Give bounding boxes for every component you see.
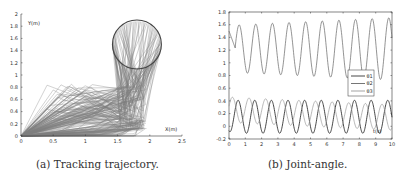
x-tick-label: 8 <box>358 141 361 147</box>
y-tick-label: 1 <box>15 72 18 78</box>
x-tick-label: 2 <box>260 141 263 147</box>
caption-joint-angle: (b) Joint-angle. <box>268 158 347 170</box>
x-tick-label: 0.5 <box>49 138 57 144</box>
x-tick-label: 10 <box>389 141 395 147</box>
y-tick-label: 0.2 <box>10 121 18 127</box>
y-tick-label: 1.8 <box>10 23 18 29</box>
x-tick-label: 2.5 <box>178 138 186 144</box>
x-tick-label: 1 <box>84 138 87 144</box>
y-tick-label: 0.8 <box>10 84 18 90</box>
legend-label: θ3 <box>367 88 373 94</box>
x-tick-label: 0 <box>227 141 230 147</box>
x-axis-label: t(s) <box>373 128 382 134</box>
y-tick-label: 0.2 <box>218 110 226 116</box>
x-tick-label: 3 <box>276 141 279 147</box>
tracking-trajectory-chart: 00.511.522.500.20.40.60.811.21.41.61.82Y… <box>0 0 204 184</box>
y-tick-label: 0.4 <box>10 108 18 114</box>
y-tick-label: 1 <box>223 60 226 66</box>
legend-label: θ2 <box>367 80 373 86</box>
x-tick-label: 1.5 <box>114 138 122 144</box>
y-tick-label: 2 <box>15 11 18 17</box>
y-tick-label: 1.6 <box>218 21 226 27</box>
y-tick-label: 1.6 <box>10 35 18 41</box>
x-tick-label: 0 <box>19 138 22 144</box>
x-tick-label: 4 <box>293 141 296 147</box>
y-tick-label: 1.4 <box>218 34 226 40</box>
y-tick-label: 0 <box>223 123 226 129</box>
joint-angle-panel: 012345678910-0.200.20.40.60.811.21.41.61… <box>204 0 408 184</box>
y-tick-label: 0.6 <box>218 85 226 91</box>
y-tick-label: 1.8 <box>218 9 226 15</box>
caption-tracking-trajectory: (a) Tracking trajectory. <box>36 158 159 170</box>
x-axis-label: X(m) <box>165 126 177 132</box>
x-tick-label: 2 <box>148 138 151 144</box>
y-tick-label: 0.8 <box>218 72 226 78</box>
y-tick-label: 0 <box>15 133 18 139</box>
y-tick-label: 1.4 <box>10 47 18 53</box>
y-tick-label: 1.2 <box>10 60 18 66</box>
y-tick-label: 1.2 <box>218 47 226 53</box>
legend: θ1θ2θ3 <box>348 70 374 96</box>
x-tick-label: 6 <box>325 141 328 147</box>
legend-label: θ1 <box>367 73 373 79</box>
x-tick-label: 7 <box>342 141 345 147</box>
y-axis-label: Y(m) <box>27 20 40 26</box>
y-tick-label: 0.6 <box>10 96 18 102</box>
y-tick-label: 0.4 <box>218 98 226 104</box>
joint-angle-chart: 012345678910-0.200.20.40.60.811.21.41.61… <box>204 0 408 184</box>
x-tick-label: 9 <box>374 141 377 147</box>
link-traces <box>21 21 161 136</box>
y-tick-label: -0.2 <box>216 136 226 142</box>
x-tick-label: 5 <box>309 141 312 147</box>
tracking-trajectory-panel: 00.511.522.500.20.40.60.811.21.41.61.82Y… <box>0 0 204 184</box>
x-tick-label: 1 <box>244 141 247 147</box>
